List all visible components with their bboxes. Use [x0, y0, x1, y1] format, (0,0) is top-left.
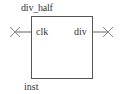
instance-name: inst: [24, 82, 38, 92]
pin-wires: [0, 0, 121, 94]
